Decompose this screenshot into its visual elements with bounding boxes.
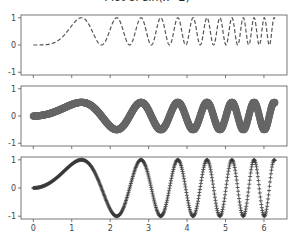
x-tick-label: 1 [69, 224, 74, 233]
x-tick-label: 4 [185, 224, 190, 233]
x-tick-label: 0 [31, 224, 36, 233]
y-tick-label: 1 [11, 14, 16, 23]
y-tick-label: 0 [11, 41, 16, 50]
y-tick-label: 1 [11, 85, 16, 94]
circle-marker [271, 99, 278, 106]
y-tick-label: 0 [11, 112, 16, 121]
x-tick-label: 6 [261, 224, 266, 233]
x-tick-label: 3 [146, 224, 151, 233]
y-tick-label: 0 [11, 184, 16, 193]
panel-half-sin: -101 [8, 85, 287, 149]
x-tick-label: 2 [108, 224, 113, 233]
panel-sin: -1010123456 [8, 156, 287, 233]
y-tick-label: -1 [8, 68, 16, 77]
panel-sin-squared: -101 [8, 14, 287, 78]
y-tick-label: -1 [8, 139, 16, 148]
y-tick-label: -1 [8, 212, 16, 221]
y-tick-label: 1 [11, 156, 16, 165]
figure: -101 -101 -1010123456 [0, 0, 294, 237]
x-tick-label: 5 [223, 224, 228, 233]
axes-frame [21, 15, 287, 75]
